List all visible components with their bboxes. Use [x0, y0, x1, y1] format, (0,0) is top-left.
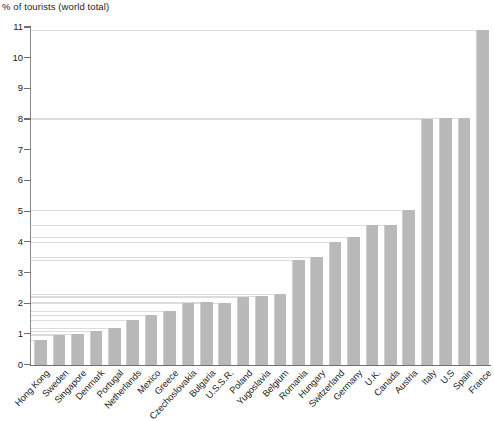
x-tick-label: Italy — [419, 368, 438, 387]
